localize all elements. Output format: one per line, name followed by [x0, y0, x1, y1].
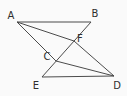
point-label-E: E	[33, 80, 39, 91]
point-label-B: B	[92, 8, 99, 19]
geometry-diagram-canvas: ABFCED	[0, 0, 127, 96]
geometry-diagram: ABFCED	[0, 0, 127, 96]
point-label-F: F	[77, 33, 83, 44]
segment-ED	[42, 76, 114, 77]
point-label-A: A	[8, 10, 15, 21]
point-label-D: D	[113, 80, 121, 91]
segment-AF	[17, 22, 74, 41]
point-label-C: C	[44, 51, 51, 62]
